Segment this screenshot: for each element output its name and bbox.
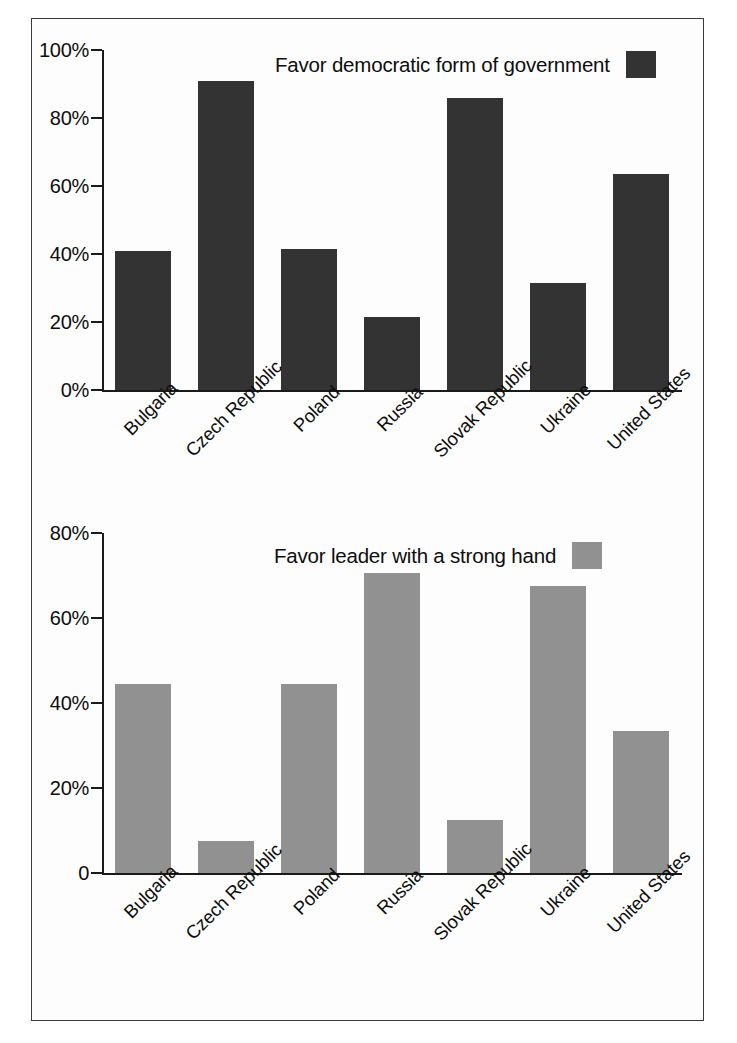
y-tick [91,321,102,323]
y-tick [91,185,102,187]
legend-bottom: Favor leader with a strong hand [274,542,602,569]
category-label-slot: Poland [268,878,351,998]
x-axis-line-top [102,390,682,392]
bar [281,684,337,873]
y-tick-label: 40% [50,692,89,715]
y-tick [91,117,102,119]
bar-slot [351,533,434,873]
chart-panel-top: Favor democratic form of government 0%20… [32,25,705,505]
category-label-slot: Bulgaria [102,395,185,515]
category-label-slot: Poland [268,395,351,515]
chart-panel-bottom: 020%40%60%80% BulgariaCzech RepublicPola… [32,511,705,1016]
bar-slot [433,533,516,873]
category-label-slot: Slovak Republic [433,395,516,515]
x-axis-line-bottom [102,873,682,875]
category-label-slot: Czech Republic [185,395,268,515]
bar [281,249,337,390]
y-tick-label: 60% [50,175,89,198]
bar-slot [102,50,185,390]
bar-group-top [102,50,682,390]
bar-slot [268,533,351,873]
y-tick-label: 100% [39,39,89,62]
plot-area-top: 0%20%40%60%80%100% [102,50,682,390]
bar [364,573,420,873]
bar-slot [599,50,682,390]
y-tick-label: 0 [78,862,89,885]
y-tick-label: 60% [50,607,89,630]
y-tick [91,49,102,51]
bar [115,684,171,873]
category-label-slot: United States [599,878,682,998]
y-tick [91,617,102,619]
bar-slot [102,533,185,873]
legend-label-strong-hand: Favor leader with a strong hand [274,544,556,568]
bar-slot [185,50,268,390]
bar-slot [516,50,599,390]
bar-slot [433,50,516,390]
bar-slot [351,50,434,390]
y-tick [91,702,102,704]
y-tick-label: 80% [50,107,89,130]
category-label-slot: Bulgaria [102,878,185,998]
y-tick-label: 20% [50,311,89,334]
y-tick-label: 0% [61,379,89,402]
y-tick [91,872,102,874]
x-axis-categories-top: BulgariaCzech RepublicPolandRussiaSlovak… [102,395,682,515]
bar [613,174,669,390]
category-label-slot: Russia [351,878,434,998]
category-label-slot: Slovak Republic [433,878,516,998]
bar-slot [268,50,351,390]
y-tick-label: 20% [50,777,89,800]
bar-slot [516,533,599,873]
bar [364,317,420,390]
y-tick [91,389,102,391]
bar-slot [599,533,682,873]
y-tick [91,532,102,534]
bar [530,586,586,873]
category-label-slot: Ukraine [516,878,599,998]
bar [115,251,171,390]
category-label-slot: Ukraine [516,395,599,515]
y-tick-label: 40% [50,243,89,266]
bar [198,81,254,390]
bar-group-bottom [102,533,682,873]
bar [447,98,503,390]
y-tick [91,787,102,789]
plot-area-bottom: 020%40%60%80% [102,533,682,873]
legend-swatch-strong-hand [572,542,602,569]
x-axis-categories-bottom: BulgariaCzech RepublicPolandRussiaSlovak… [102,878,682,998]
bar [530,283,586,390]
category-label-slot: Czech Republic [185,878,268,998]
y-tick [91,253,102,255]
bar-slot [185,533,268,873]
bar [613,731,669,873]
figure-frame: Favor democratic form of government 0%20… [31,18,704,1021]
y-tick-label: 80% [50,522,89,545]
category-label-slot: United States [599,395,682,515]
category-label-slot: Russia [351,395,434,515]
